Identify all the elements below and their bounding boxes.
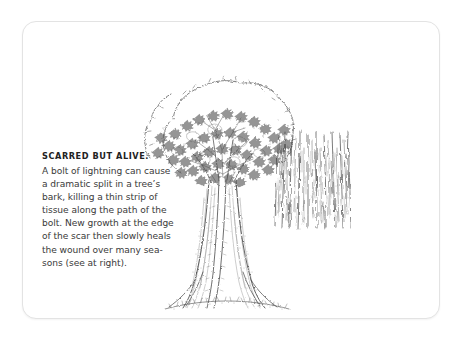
caption-line: a dramatic split in a tree’s (42, 178, 175, 191)
caption-line: of the scar then slowly heals (42, 230, 175, 243)
caption-line: the wound over many sea- (42, 244, 175, 257)
caption-line: A bolt of lightning can cause (42, 165, 175, 178)
caption-heading: SCARRED BUT ALIVE. (42, 150, 175, 163)
caption-line: tissue along the path of the (42, 204, 175, 217)
illustration-card: SCARRED BUT ALIVE. A bolt of lightning c… (22, 21, 440, 319)
caption-line: bark, killing a thin strip of (42, 191, 175, 204)
screenshot-root: SCARRED BUT ALIVE. A bolt of lightning c… (0, 0, 462, 339)
caption-line: bolt. New growth at the edge (42, 217, 175, 230)
bark-detail-panel (275, 131, 351, 230)
caption-block: SCARRED BUT ALIVE. A bolt of lightning c… (42, 150, 175, 270)
caption-line: sons (see at right). (42, 257, 175, 270)
caption-body: A bolt of lightning can cause a dramatic… (42, 165, 175, 270)
